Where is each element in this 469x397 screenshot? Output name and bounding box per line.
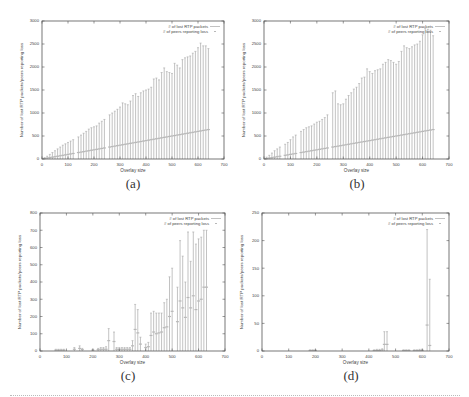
svg-text:800: 800 [30, 210, 38, 215]
svg-text:0: 0 [41, 162, 44, 167]
svg-text:0: 0 [37, 156, 40, 161]
legend: # of lost RTP packets# of peers reportin… [388, 216, 445, 226]
svg-text:200: 200 [91, 162, 99, 167]
svg-text:700: 700 [222, 354, 230, 359]
error-bars [266, 28, 435, 159]
svg-text:700: 700 [30, 228, 38, 233]
svg-text:600: 600 [30, 245, 38, 250]
svg-text:3000: 3000 [252, 18, 262, 23]
svg-text:500: 500 [32, 133, 40, 138]
svg-text:600: 600 [419, 354, 427, 359]
svg-text:400: 400 [142, 354, 150, 359]
svg-text:# of peers reporting loss: # of peers reporting loss [388, 29, 433, 34]
x-axis-label: Overlay size [343, 360, 369, 365]
error-bars [309, 230, 431, 351]
axis-ticks: 0100200300400500600700010020030040050060… [30, 210, 229, 358]
svg-text:1000: 1000 [30, 110, 40, 115]
svg-text:2000: 2000 [30, 64, 40, 69]
svg-text:200: 200 [89, 354, 97, 359]
svg-text:400: 400 [365, 354, 373, 359]
panel-label-d: (d) [331, 368, 371, 384]
plot-frame [262, 213, 449, 351]
chart-d: 0100200300400500600700050100150200250Ove… [235, 192, 469, 370]
svg-text:# of peers reporting loss: # of peers reporting loss [388, 221, 433, 226]
svg-text:1500: 1500 [252, 87, 262, 92]
chart-c: 0100200300400500600700010020030040050060… [0, 192, 235, 370]
svg-text:100: 100 [287, 162, 295, 167]
svg-text:300: 300 [339, 354, 347, 359]
svg-text:600: 600 [195, 162, 203, 167]
svg-text:50: 50 [254, 321, 259, 326]
plot-frame [40, 213, 225, 351]
svg-text:400: 400 [366, 162, 374, 167]
x-axis-label: Overlay size [120, 168, 146, 173]
y-axis-label: Number of lost RTP packets/peers reporti… [17, 234, 22, 329]
svg-text:200: 200 [252, 238, 260, 243]
legend: # of lost RTP packets# of peers reportin… [388, 24, 445, 34]
svg-text:500: 500 [392, 354, 400, 359]
svg-text:100: 100 [285, 354, 293, 359]
svg-text:100: 100 [63, 354, 71, 359]
svg-text:2500: 2500 [30, 41, 40, 46]
error-bars [44, 43, 210, 159]
svg-text:100: 100 [65, 162, 73, 167]
panel-label-c: (c) [108, 368, 148, 384]
svg-text:600: 600 [419, 162, 427, 167]
svg-text:# of peers reporting loss: # of peers reporting loss [164, 221, 209, 226]
legend: # of lost RTP packets# of peers reportin… [163, 24, 220, 34]
axis-ticks: 0100200300400500600700050100150200250 [252, 210, 453, 358]
svg-text:250: 250 [252, 210, 260, 215]
panel-label-b: (b) [337, 176, 377, 192]
svg-text:700: 700 [446, 162, 454, 167]
y-axis-label: Number of lost RTP packets/peers reporti… [239, 234, 244, 329]
svg-text:200: 200 [313, 162, 321, 167]
svg-text:300: 300 [30, 297, 38, 302]
svg-text:400: 400 [143, 162, 151, 167]
chart-a: 0100200300400500600700050010001500200025… [0, 0, 235, 178]
svg-text:1000: 1000 [252, 110, 262, 115]
svg-text:2500: 2500 [252, 41, 262, 46]
svg-text:500: 500 [254, 133, 262, 138]
svg-text:0: 0 [259, 156, 262, 161]
svg-text:150: 150 [252, 266, 260, 271]
svg-text:0: 0 [39, 354, 42, 359]
svg-text:400: 400 [30, 279, 38, 284]
error-bars [55, 230, 208, 351]
svg-text:100: 100 [252, 293, 260, 298]
panel-label-a: (a) [113, 176, 153, 192]
peer-markers [309, 325, 432, 350]
svg-text:500: 500 [169, 162, 177, 167]
svg-text:300: 300 [340, 162, 348, 167]
x-axis-label: Overlay size [120, 360, 146, 365]
svg-text:500: 500 [30, 262, 38, 267]
svg-text:0: 0 [263, 162, 266, 167]
y-axis-label: Number of lost RTP packets/peers reporti… [241, 42, 246, 137]
svg-text:3000: 3000 [30, 18, 40, 23]
legend: # of lost RTP packets# of peers reportin… [164, 216, 221, 226]
svg-text:500: 500 [393, 162, 401, 167]
svg-text:1500: 1500 [30, 87, 40, 92]
svg-text:200: 200 [30, 314, 38, 319]
svg-text:500: 500 [169, 354, 177, 359]
svg-text:300: 300 [116, 354, 124, 359]
svg-text:300: 300 [117, 162, 125, 167]
svg-text:0: 0 [261, 354, 264, 359]
svg-text:100: 100 [30, 331, 38, 336]
y-axis-label: Number of lost RTP packets/peers reporti… [19, 42, 24, 137]
svg-text:0: 0 [35, 348, 38, 353]
svg-text:2000: 2000 [252, 64, 262, 69]
chart-b: 0100200300400500600700050010001500200025… [235, 0, 469, 178]
svg-text:# of peers reporting loss: # of peers reporting loss [163, 29, 208, 34]
peer-markers [54, 287, 208, 350]
svg-text:200: 200 [312, 354, 320, 359]
svg-text:700: 700 [221, 162, 229, 167]
figure-caption-cutoff [10, 393, 460, 397]
x-axis-label: Overlay size [344, 168, 370, 173]
svg-text:700: 700 [446, 354, 454, 359]
svg-text:0: 0 [257, 348, 260, 353]
svg-text:600: 600 [195, 354, 203, 359]
